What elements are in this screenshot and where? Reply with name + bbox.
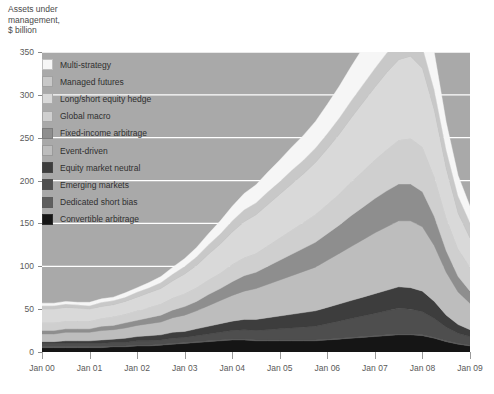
x-tick-label: Jan 09	[457, 363, 483, 373]
legend-item-label: Global macro	[60, 111, 111, 121]
x-tick-mark	[280, 352, 281, 359]
legend-item-label: Multi-strategy	[60, 60, 111, 70]
x-tick-label: Jan 08	[410, 363, 436, 373]
legend-item[interactable]: Convertible arbitrage	[42, 211, 212, 228]
y-tick-label: 350	[20, 47, 34, 57]
y-tick-label: 50	[25, 304, 34, 314]
legend-item-label: Long/short equity hedge	[60, 94, 151, 104]
legend-item-label: Emerging markets	[60, 180, 129, 190]
x-axis: Jan 00Jan 01Jan 02Jan 03Jan 04Jan 05Jan …	[42, 352, 470, 382]
x-tick-label: Jan 07	[362, 363, 388, 373]
legend-item[interactable]: Global macro	[42, 108, 212, 125]
y-tick-label: 150	[20, 218, 34, 228]
legend-item[interactable]: Emerging markets	[42, 176, 212, 193]
x-tick-label: Jan 06	[315, 363, 341, 373]
x-tick-label: Jan 05	[267, 363, 293, 373]
x-tick-label: Jan 03	[172, 363, 198, 373]
legend-swatch	[42, 197, 53, 208]
chart-page: Assets under management, $ billion 05010…	[0, 0, 494, 394]
legend-swatch	[42, 145, 53, 156]
legend-swatch	[42, 214, 53, 225]
legend-swatch	[42, 162, 53, 173]
y-tick-label: 100	[20, 261, 34, 271]
x-tick-mark	[185, 352, 186, 359]
x-tick-mark	[232, 352, 233, 359]
x-tick-label: Jan 00	[29, 363, 55, 373]
legend-swatch	[42, 76, 53, 87]
x-tick-mark	[470, 352, 471, 359]
legend-item-label: Fixed-income arbitrage	[60, 128, 147, 138]
legend-swatch	[42, 179, 53, 190]
legend-swatch	[42, 111, 53, 122]
legend-swatch	[42, 59, 53, 70]
legend-item[interactable]: Event-driven	[42, 142, 212, 159]
legend-item[interactable]: Equity market neutral	[42, 159, 212, 176]
x-tick-mark	[375, 352, 376, 359]
legend-swatch	[42, 93, 53, 104]
y-axis: 050100150200250300350	[0, 52, 42, 352]
y-tick-label: 0	[29, 347, 34, 357]
legend-item[interactable]: Managed futures	[42, 73, 212, 90]
y-tick-label: 250	[20, 133, 34, 143]
legend-item[interactable]: Multi-strategy	[42, 56, 212, 73]
x-tick-mark	[90, 352, 91, 359]
legend-item-label: Equity market neutral	[60, 163, 140, 173]
x-tick-label: Jan 02	[124, 363, 150, 373]
x-tick-label: Jan 04	[219, 363, 245, 373]
x-tick-mark	[42, 352, 43, 359]
chart-axis-title: Assets under management, $ billion	[8, 4, 60, 36]
y-tick-label: 200	[20, 176, 34, 186]
chart-legend: Multi-strategyManaged futuresLong/short …	[42, 56, 212, 228]
legend-item-label: Dedicated short bias	[60, 197, 138, 207]
legend-item[interactable]: Long/short equity hedge	[42, 90, 212, 107]
x-tick-label: Jan 01	[77, 363, 103, 373]
x-tick-mark	[422, 352, 423, 359]
x-tick-mark	[137, 352, 138, 359]
legend-item-label: Event-driven	[60, 146, 108, 156]
legend-item-label: Managed futures	[60, 77, 124, 87]
legend-item[interactable]: Dedicated short bias	[42, 194, 212, 211]
y-tick-label: 300	[20, 90, 34, 100]
legend-item-label: Convertible arbitrage	[60, 214, 139, 224]
legend-swatch	[42, 128, 53, 139]
legend-item[interactable]: Fixed-income arbitrage	[42, 125, 212, 142]
x-tick-mark	[327, 352, 328, 359]
